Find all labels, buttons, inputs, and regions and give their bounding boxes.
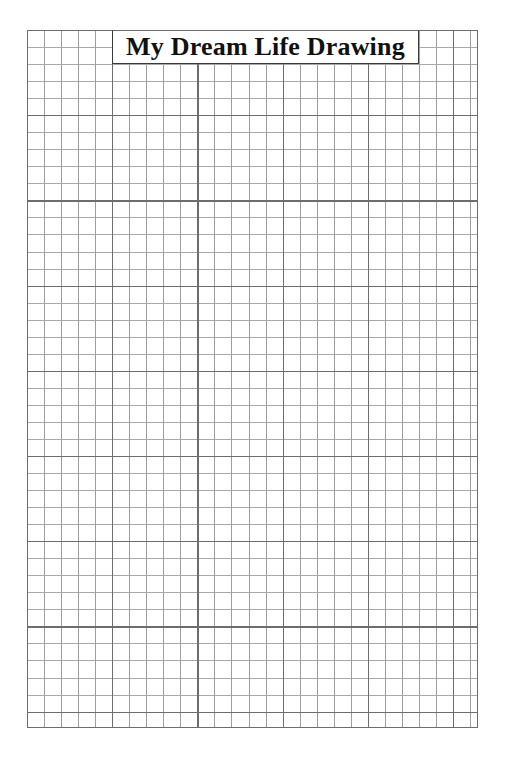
page-title: My Dream Life Drawing [126, 32, 405, 62]
title-box: My Dream Life Drawing [112, 30, 419, 64]
worksheet-page: My Dream Life Drawing [0, 0, 505, 759]
graph-paper-grid [27, 30, 478, 728]
